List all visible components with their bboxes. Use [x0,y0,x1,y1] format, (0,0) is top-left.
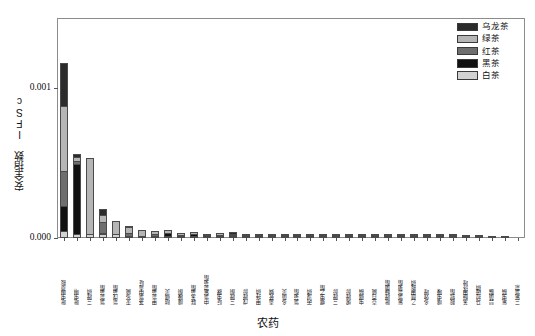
legend-item: 黑茶 [457,58,521,70]
x-tick-label: 三唑磷 [87,243,93,305]
bar-segment [60,206,68,231]
x-tick-mark [518,238,519,241]
x-tick-mark [155,238,156,241]
x-tick-mark [194,238,195,241]
stacked-bar [86,158,94,238]
legend-item: 白茶 [457,70,521,82]
x-tick-label: 苯醚甲环唑 [463,243,469,305]
x-tick-mark [181,238,182,241]
x-tick-label: 氟虫腈 [502,243,508,305]
stacked-bar [125,226,133,238]
x-tick-mark [233,238,234,241]
x-tick-label: 多效唑 [424,243,430,305]
x-tick-mark [129,238,130,241]
x-tick-label: 克百威 [372,243,378,305]
x-tick-label: 氯氰菊酯 [100,243,106,305]
x-tick-label: 啶虫脒 [217,243,223,305]
x-tick-label: 噻嗪酮 [178,243,184,305]
stacked-bar [99,209,107,238]
x-tick-label: 异菌脲 [489,243,495,305]
x-tick-label: 三唑酮 [230,243,236,305]
x-tick-label: 胺鲜酯 [450,243,456,305]
x-tick-mark [103,238,104,241]
bar-segment [60,106,68,171]
x-tick-mark [492,238,493,241]
x-tick-label: 中氯氟氰菊酯 [204,243,210,305]
x-tick-mark [505,238,506,241]
legend-label: 黑茶 [482,59,500,68]
x-tick-label: 联苯菊酯 [191,243,197,305]
x-tick-mark [220,238,221,241]
stacked-bar [112,221,120,238]
x-tick-mark [414,238,415,241]
x-tick-mark [168,238,169,241]
x-tick-label: 丙溴磷 [307,243,313,305]
bar-segment [99,222,107,233]
x-axis-title: 农药 [0,314,535,330]
x-tick-label: 茶氯中毒啶 [139,243,145,305]
x-tick-label: 甲拌磷 [256,243,262,305]
y-tick-mark [54,238,58,239]
y-tick-label: 0.001 [30,82,51,92]
legend-label: 乌龙茶 [482,22,509,31]
x-tick-label: 三氟氯氰 [515,243,521,305]
bar-segment [60,63,68,106]
x-tick-label: 乙酰甲胺磷 [411,243,417,305]
x-tick-mark [297,238,298,241]
x-tick-label: 三唑醇 [333,243,339,305]
legend-item: 红茶 [457,45,521,57]
x-tick-label: 氟氯氰菊酯 [398,243,404,305]
x-tick-label: 毒死蜱 [269,243,275,305]
legend-swatch [457,35,478,44]
x-tick-mark [310,238,311,241]
x-tick-label: 哒螨灵 [165,243,171,305]
x-tick-label: 甲氰菊酯 [152,243,158,305]
stacked-bar [164,230,172,238]
stacked-bar [138,230,146,238]
x-tick-mark [207,238,208,241]
x-tick-label: 多菌灵 [282,243,288,305]
stacked-bar [60,63,68,238]
x-tick-mark [375,238,376,241]
x-tick-mark [401,238,402,241]
legend-label: 白茶 [482,71,500,80]
y-tick-label: 0.000 [30,232,51,242]
x-tick-mark [336,238,337,241]
legend-label: 红茶 [482,47,500,56]
legend-item: 乌龙茶 [457,21,521,33]
bar-segment [99,215,107,222]
x-tick-label: 虫螨腈 [359,243,365,305]
x-tick-mark [453,238,454,241]
x-tick-mark [285,238,286,241]
bar-segment [86,158,94,234]
legend-label: 绿茶 [482,34,500,43]
bar-segment [60,171,68,206]
x-tick-label: 噻虫嗪 [437,243,443,305]
x-tick-label: 螺虫乙酯 [320,243,326,305]
x-tick-mark [90,238,91,241]
x-tick-mark [479,238,480,241]
legend-swatch [457,59,478,68]
x-tick-mark [388,238,389,241]
x-tick-mark [116,238,117,241]
x-tick-label: 氯菊酯 [294,243,300,305]
legend-swatch [457,23,478,32]
stacked-bar [73,154,81,238]
x-tick-mark [64,238,65,241]
y-axis-title: 安全指数 IFSc [14,96,30,191]
x-tick-mark [466,238,467,241]
x-tick-mark [142,238,143,241]
x-tick-mark [427,238,428,241]
x-tick-label: 灭多威 [126,243,132,305]
bar-segment [73,164,81,234]
y-tick-mark [54,88,58,89]
bar-segment [112,221,120,234]
x-tick-label: 烯唑醇 [346,243,352,305]
legend-item: 绿茶 [457,33,521,45]
x-tick-mark [440,238,441,241]
x-tick-label: 氰戊菊酯 [113,243,119,305]
x-tick-label: 戊唑醇 [243,243,249,305]
stacked-bar [151,231,159,238]
bar-segment [60,231,68,238]
legend-swatch [457,47,478,56]
